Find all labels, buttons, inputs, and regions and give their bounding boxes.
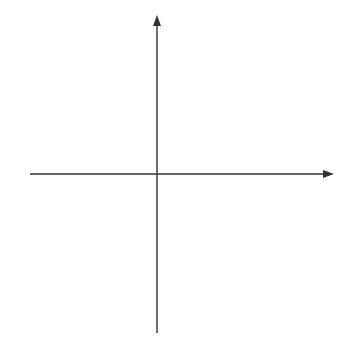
y-axis-arrow-icon [153,15,161,26]
x-axis-arrow-icon [323,170,334,178]
axes [30,15,334,333]
function-graph [0,0,355,347]
